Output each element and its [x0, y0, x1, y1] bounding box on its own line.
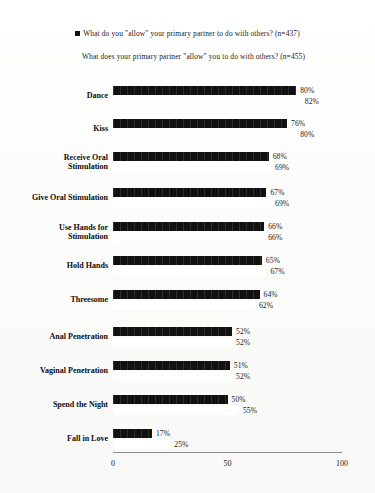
bar-chart: What do you "allow" your primary partner… [0, 0, 375, 493]
category-label: Threesome [0, 295, 108, 304]
bar-value-series1: 66% [268, 222, 282, 231]
bar-value-series1: 76% [291, 119, 305, 128]
bar-value-series1: 64% [264, 290, 278, 299]
bar-series2 [113, 199, 271, 208]
bar-value-series2: 55% [243, 406, 257, 415]
category-label: Hold Hands [0, 261, 108, 270]
bar-value-series1: 50% [232, 395, 246, 404]
category-label: Anal Penetration [0, 332, 108, 341]
bar-value-series2: 80% [300, 130, 314, 139]
bar-series1 [113, 290, 260, 299]
bar-series1 [113, 222, 264, 231]
bar-value-series2: 69% [275, 199, 289, 208]
bar-series2 [113, 440, 170, 449]
bar-value-series2: 82% [305, 97, 319, 106]
x-axis-tick-label: 0 [111, 459, 115, 468]
bar-value-series2: 69% [275, 163, 289, 172]
filled-square-marker-icon [75, 31, 80, 36]
bar-value-series2: 25% [174, 440, 188, 449]
bar-series2 [113, 406, 239, 415]
x-axis-line [113, 452, 342, 453]
category-label: Give Oral Stimulation [0, 193, 108, 202]
category-label: Use Hands for Stimulation [0, 223, 108, 242]
bar-series2 [113, 233, 264, 242]
category-label: Receive Oral Stimulation [0, 153, 108, 172]
bar-value-series1: 17% [156, 429, 170, 438]
bar-series2 [113, 338, 232, 347]
bar-value-series2: 67% [270, 267, 284, 276]
bar-series2 [113, 163, 271, 172]
legend-entry-series1: What do you "allow" your primary partner… [0, 30, 375, 37]
bar-series1 [113, 188, 266, 197]
bar-series2 [113, 97, 301, 106]
bar-value-series1: 52% [236, 327, 250, 336]
bar-value-series1: 65% [266, 256, 280, 265]
bar-series2 [113, 372, 232, 381]
bar-value-series1: 68% [273, 152, 287, 161]
x-axis-tick-label: 100 [336, 459, 348, 468]
plot-area: 80%82%76%80%68%69%67%69%66%66%65%67%64%6… [113, 84, 342, 452]
bar-value-series1: 67% [270, 188, 284, 197]
bar-value-series1: 51% [234, 361, 248, 370]
bar-series1 [113, 256, 262, 265]
legend-label-series1: What do you "allow" your primary partner… [83, 29, 300, 38]
category-label: Fall in Love [0, 434, 108, 443]
bar-series2 [113, 267, 266, 276]
bar-series2 [113, 301, 255, 310]
bar-value-series2: 52% [236, 338, 250, 347]
x-axis-tick-label: 50 [224, 459, 232, 468]
bar-series1 [113, 86, 296, 95]
bar-value-series2: 62% [259, 301, 273, 310]
bar-series2 [113, 130, 296, 139]
bar-series1 [113, 119, 287, 128]
bar-series1 [113, 361, 230, 370]
bar-series1 [113, 327, 232, 336]
legend-entry-series2: What does your primary partner "allow" y… [0, 53, 375, 60]
bar-value-series2: 66% [268, 233, 282, 242]
bar-series1 [113, 395, 228, 404]
category-label: Vaginal Penetration [0, 366, 108, 375]
category-label: Dance [0, 91, 108, 100]
chart-legend: What do you "allow" your primary partner… [0, 30, 375, 61]
bar-value-series2: 52% [236, 372, 250, 381]
category-label: Kiss [0, 124, 108, 133]
bar-series1 [113, 429, 152, 438]
category-axis-labels: DanceKissReceive Oral StimulationGive Or… [0, 84, 108, 452]
category-label: Spend the Night [0, 400, 108, 409]
bar-value-series1: 80% [300, 86, 314, 95]
bar-series1 [113, 152, 269, 161]
x-axis-tick-labels: 050100 [113, 459, 342, 473]
legend-label-series2: What does your primary partner "allow" y… [82, 52, 305, 61]
